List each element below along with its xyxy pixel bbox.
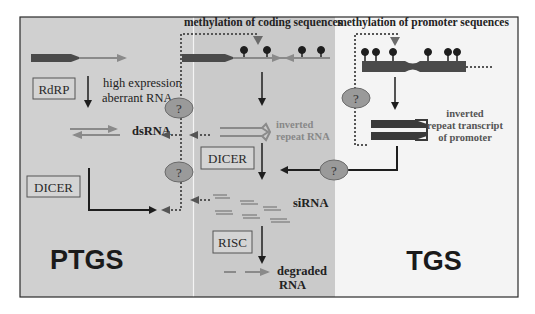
inverted-repeat-label-1: inverted bbox=[276, 119, 313, 130]
risc-box: RISC bbox=[213, 231, 252, 253]
dicer-mid-label: DICER bbox=[208, 151, 247, 166]
dsrna-label: dsRNA bbox=[132, 124, 171, 138]
question-oval-3: ? bbox=[342, 88, 370, 108]
promoter-transcript-label-3: of promoter bbox=[438, 132, 492, 143]
dicer-left-box: DICER bbox=[27, 176, 80, 197]
degraded-label-2: RNA bbox=[279, 278, 306, 292]
question-oval-2: ? bbox=[165, 162, 193, 182]
rna-silencing-diagram: RdRP high expression aberrant RNA dsRNA … bbox=[0, 0, 535, 314]
aberrant-rna-label: aberrant RNA bbox=[102, 91, 172, 105]
methylation-promoter-label: methylation of promoter sequences bbox=[337, 16, 509, 29]
question-oval-4: ? bbox=[320, 160, 348, 180]
risc-label: RISC bbox=[218, 235, 247, 250]
ptgs-label: PTGS bbox=[50, 245, 124, 275]
question-mark-icon: ? bbox=[353, 91, 359, 106]
question-mark-icon: ? bbox=[176, 101, 182, 116]
high-expression-label: high expression bbox=[103, 76, 183, 90]
promoter-transcript-label-2: repeat transcript bbox=[427, 120, 503, 131]
question-mark-icon: ? bbox=[331, 163, 337, 178]
rdrp-label: RdRP bbox=[38, 82, 69, 97]
degraded-label-1: degraded bbox=[277, 264, 327, 278]
dicer-mid-box: DICER bbox=[201, 147, 254, 169]
promoter-transcript-label-1: inverted bbox=[446, 108, 483, 119]
question-mark-icon: ? bbox=[176, 165, 182, 180]
tgs-label: TGS bbox=[406, 246, 462, 276]
methylation-coding-label: methylation of coding sequences bbox=[184, 16, 343, 29]
question-oval-1: ? bbox=[165, 98, 193, 118]
inverted-repeat-label-2: repeat RNA bbox=[276, 131, 330, 142]
rdrp-box: RdRP bbox=[33, 78, 75, 99]
sirna-label: siRNA bbox=[293, 196, 328, 210]
dicer-left-label: DICER bbox=[34, 180, 73, 195]
